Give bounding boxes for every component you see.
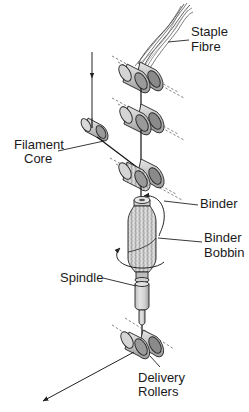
output-arrow xyxy=(43,352,134,401)
staple-fibre-label-line1: Staple xyxy=(191,24,228,39)
back-rollers xyxy=(112,56,184,98)
filament-core-strand xyxy=(97,137,138,168)
delivery-rollers-label-line1: Delivery xyxy=(138,370,185,385)
staple-fibre-leader xyxy=(168,40,189,42)
front-rollers xyxy=(110,158,182,200)
delivery-rollers-label-line2: Rollers xyxy=(138,384,179,399)
binder-leader xyxy=(164,201,198,205)
filament-core-leader xyxy=(58,141,104,151)
binder-bobbin xyxy=(128,197,156,283)
spindle-label: Spindle xyxy=(60,270,103,285)
binder-bobbin-leader xyxy=(158,238,202,242)
filament-core-label-line2: Core xyxy=(24,151,52,166)
spindle xyxy=(135,282,149,326)
filament-core-label-line1: Filament xyxy=(14,137,64,152)
staple-fibre-label-line2: Fibre xyxy=(191,39,221,54)
staple-fibre-strands xyxy=(135,3,193,68)
binder-bobbin-label-line1: Binder xyxy=(204,230,242,245)
binder-label: Binder xyxy=(200,196,238,211)
binder-bobbin-label-line2: Bobbin xyxy=(204,245,244,260)
filament-core-bobbin xyxy=(79,117,108,141)
yarn-spinning-diagram: Staple Fibre Filament Core xyxy=(0,0,249,412)
delivery-rollers-leader xyxy=(150,356,160,367)
spindle-leader xyxy=(103,278,136,286)
middle-rollers xyxy=(112,98,184,140)
